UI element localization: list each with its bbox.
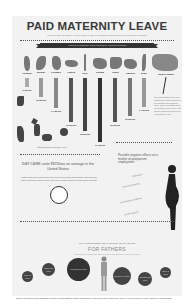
effect-item: decreased bonding bbox=[122, 182, 140, 188]
effect-item: gynecological problems bbox=[120, 197, 142, 203]
country-portugal: Portugal bbox=[20, 56, 34, 74]
country-canada: Canada bbox=[92, 58, 108, 73]
israel-map-icon bbox=[142, 54, 146, 71]
country-sweden: Sweden bbox=[123, 59, 138, 74]
sources-footnote: Sources: International Labour Organizati… bbox=[16, 297, 178, 299]
united-states-map-icon bbox=[152, 54, 178, 71]
germany-map-icon bbox=[52, 56, 61, 70]
country-chile: Chile bbox=[80, 54, 90, 74]
father-icon bbox=[99, 256, 109, 292]
country-norway: Norway bbox=[34, 56, 48, 73]
bar-spain bbox=[113, 78, 117, 122]
hawaii-map-icon bbox=[60, 128, 68, 136]
page-title: PAID MATERNITY LEAVE bbox=[12, 20, 182, 32]
fathers-question: WHAT COUNTRIES ADD PAID/UNPAID LEAVE FOR bbox=[32, 242, 182, 245]
state-map-icon bbox=[17, 96, 24, 106]
norway-map-icon bbox=[36, 56, 46, 70]
country-israel: Israel bbox=[139, 54, 149, 74]
baby-icon bbox=[50, 186, 68, 204]
bar-portugal bbox=[25, 78, 29, 87]
bar-sweden bbox=[128, 78, 132, 116]
sweden-map-icon bbox=[124, 59, 137, 69]
country-austria: Austria bbox=[64, 60, 78, 73]
new-york-map-icon bbox=[42, 134, 52, 141]
united-states-label: United States bbox=[152, 73, 180, 76]
fathers-title: FOR FATHERS bbox=[32, 246, 182, 252]
negative-effects-title: Possible negative effects on a mother of… bbox=[118, 154, 163, 165]
country-spain: Spain bbox=[108, 57, 123, 73]
country-germany: Germany bbox=[49, 56, 63, 73]
bar-israel bbox=[142, 78, 146, 107]
fathers-subtitle: The number of paid leave days offered to… bbox=[32, 253, 182, 255]
bar-norway bbox=[39, 78, 43, 97]
bar-chile bbox=[83, 78, 87, 131]
father-leave-circle: Portugal 20 days bbox=[67, 258, 90, 281]
infographic: PAID MATERNITY LEAVE THE UNITED STATES F… bbox=[12, 16, 182, 296]
states-note: States that offer paid family leave bbox=[32, 146, 72, 148]
page-subtitle: THE UNITED STATES FALLS SHORT WHEN IT CO… bbox=[20, 34, 174, 36]
bar-austria bbox=[69, 78, 73, 122]
divider bbox=[20, 221, 174, 222]
divider bbox=[20, 40, 174, 41]
father-leave-circle: Chile 5 days bbox=[22, 271, 33, 282]
divider bbox=[20, 154, 100, 155]
effect-item: depression bbox=[132, 173, 142, 177]
bar-canada bbox=[98, 78, 102, 142]
chart-banner: Amount of maternity leave allowed by var… bbox=[40, 43, 154, 48]
portugal-map-icon bbox=[24, 56, 30, 71]
united-states-note: The United States is the only industrial… bbox=[154, 96, 181, 116]
austria-map-icon bbox=[65, 60, 78, 67]
effect-item: weight retention bbox=[124, 210, 139, 215]
father-leave-circle: Canada 35 days bbox=[138, 272, 152, 286]
new-jersey-map-icon bbox=[34, 124, 40, 136]
daycare-body: Mothers who have to work while their chi… bbox=[20, 176, 98, 182]
canada-map-icon bbox=[93, 58, 107, 69]
daycare-headline: DAY CARE costs $972/mo on average in the… bbox=[18, 162, 98, 171]
divider bbox=[116, 142, 172, 143]
arrow-icon bbox=[163, 77, 167, 94]
father-leave-circle: Israel 5 days bbox=[160, 267, 171, 278]
california-map-icon bbox=[17, 126, 24, 142]
bar-germany bbox=[54, 78, 58, 108]
spain-map-icon bbox=[110, 57, 122, 69]
father-leave-circle: Norway 84 days bbox=[113, 267, 131, 285]
father-leave-circle: Spain 15 days bbox=[42, 263, 55, 276]
chile-map-icon bbox=[84, 54, 86, 71]
